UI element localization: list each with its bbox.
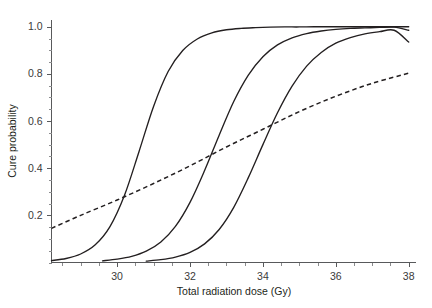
x-axis-tick-labels: 3032343638 <box>111 270 414 282</box>
series-curve-1 <box>52 27 409 261</box>
x-axis-ticks <box>63 263 410 268</box>
x-tick-label: 34 <box>257 270 269 282</box>
cure-probability-plot: 3032343638 0.20.40.60.81.0 Total radiati… <box>0 0 432 308</box>
y-axis-ticks <box>47 28 52 264</box>
y-tick-label: 0.6 <box>28 115 43 127</box>
y-tick-label: 0.8 <box>28 67 43 79</box>
y-tick-label: 1.0 <box>28 20 43 32</box>
data-curves <box>52 27 409 261</box>
y-axis-title: Cure probability <box>6 103 18 177</box>
series-curve-3 <box>146 30 408 261</box>
x-tick-label: 38 <box>403 270 415 282</box>
series-curve-2 <box>103 27 409 261</box>
y-tick-label: 0.2 <box>28 209 43 221</box>
chart-figure: 3032343638 0.20.40.60.81.0 Total radiati… <box>0 0 432 308</box>
x-axis-title: Total radiation dose (Gy) <box>177 285 291 297</box>
x-tick-label: 32 <box>184 270 196 282</box>
series-dashed-reference <box>52 73 409 228</box>
y-tick-label: 0.4 <box>28 162 43 174</box>
x-tick-label: 36 <box>330 270 342 282</box>
x-tick-label: 30 <box>111 270 123 282</box>
y-axis-tick-labels: 0.20.40.60.81.0 <box>28 20 43 221</box>
